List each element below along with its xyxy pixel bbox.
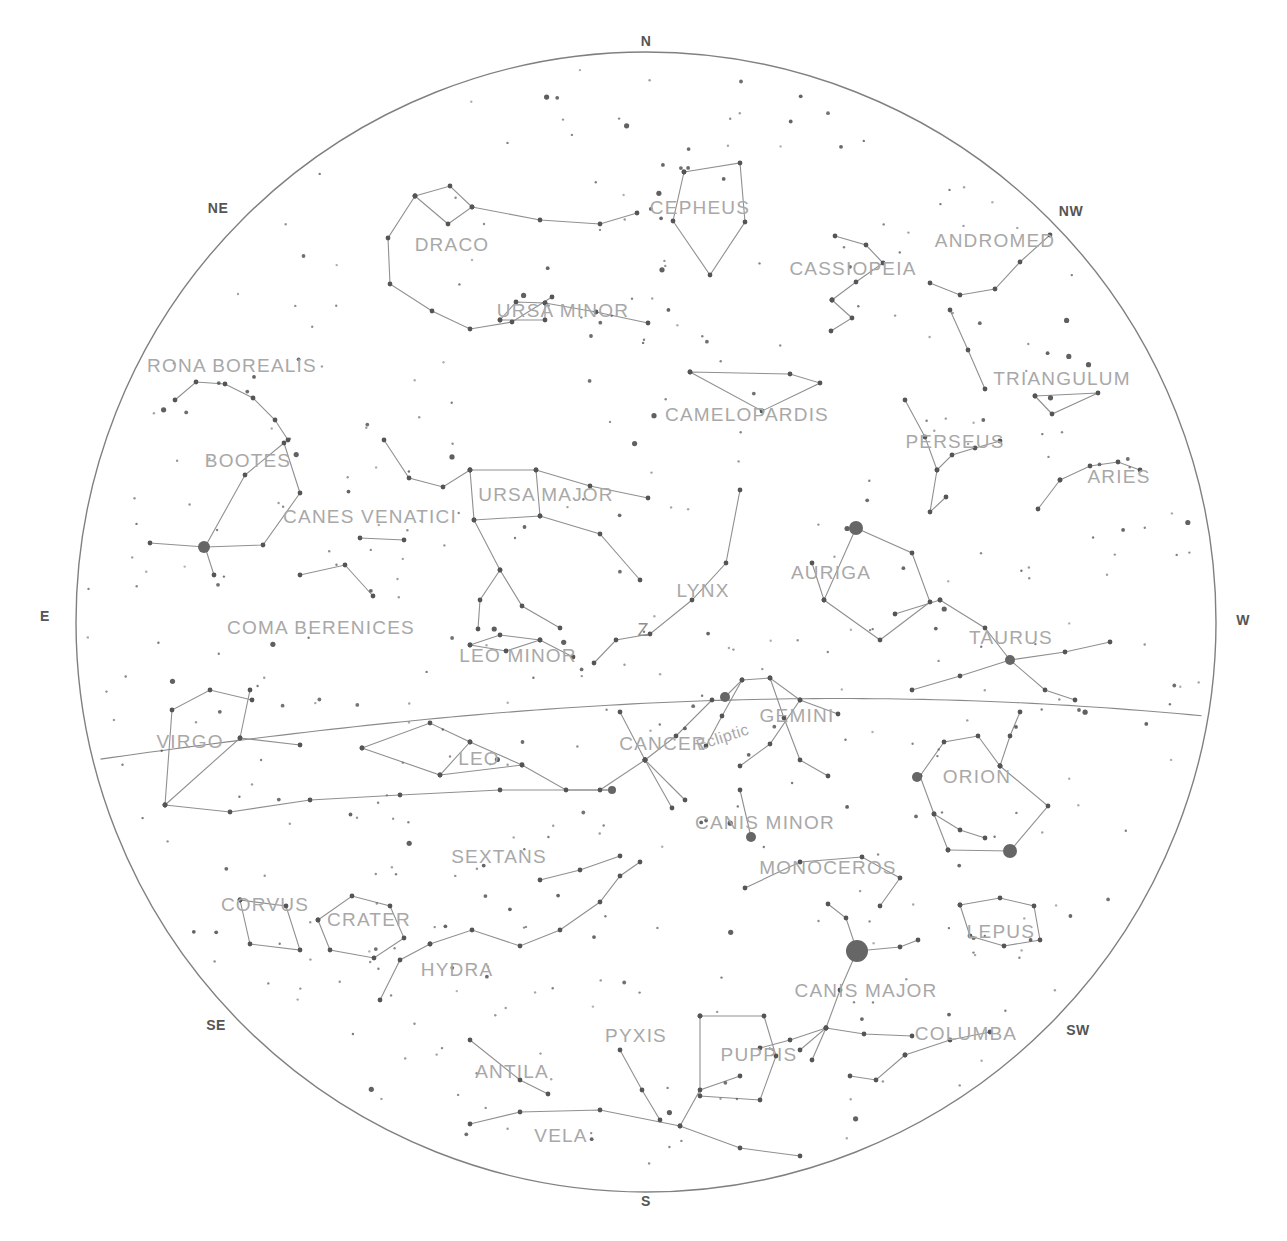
bright-star [1003, 844, 1017, 858]
cardinal-label-sw: SW [1066, 1022, 1090, 1038]
constellation-label-coma-berenices: COMA BERENICES [227, 617, 415, 639]
constellation-label-pyxis: PYXIS [605, 1025, 667, 1047]
constellation-label-rona-borealis: RONA BOREALIS [147, 355, 317, 377]
zenith-marker-label: Z [638, 620, 649, 641]
constellation-label-orion: ORION [943, 766, 1011, 788]
cardinal-label-nw: NW [1059, 203, 1083, 219]
constellation-label-aries: ARIES [1087, 466, 1150, 488]
constellation-label-canes-venatici: CANES VENATICI [283, 506, 457, 528]
constellation-label-andromed: ANDROMED [935, 230, 1055, 252]
constellation-label-leo-minor: LEO MINOR [459, 645, 576, 667]
constellation-lines [150, 163, 1140, 1156]
constellation-label-canis-minor: CANIS MINOR [695, 812, 835, 834]
cardinal-label-se: SE [206, 1017, 226, 1033]
cardinal-label-ne: NE [208, 200, 228, 216]
bright-star [720, 692, 730, 702]
constellation-label-vela: VELA [534, 1125, 587, 1147]
bright-stars [198, 521, 1017, 962]
constellation-label-ursa-minor: URSA MINOR [497, 300, 629, 322]
bright-star [846, 940, 868, 962]
constellation-label-draco: DRACO [415, 234, 490, 256]
constellation-label-taurus: TAURUS [969, 627, 1053, 649]
bright-star [608, 786, 616, 794]
constellation-label-cepheus: CEPHEUS [650, 197, 750, 219]
constellation-label-lepus: LEPUS [967, 921, 1035, 943]
cardinal-label-w: W [1236, 612, 1250, 628]
constellation-label-bootes: BOOTES [205, 450, 291, 472]
constellation-label-cassiopeia: CASSIOPEIA [789, 258, 916, 280]
constellation-label-hydra: HYDRA [421, 959, 494, 981]
constellation-label-lynx: LYNX [676, 580, 729, 602]
constellation-label-corvus: CORVUS [221, 894, 309, 916]
constellation-label-gemini: GEMINI [760, 705, 835, 727]
constellation-label-sextans: SEXTANS [451, 846, 547, 868]
constellation-label-puppis: PUPPIS [721, 1044, 798, 1066]
star-chart: NNENWEWSESWS CEPHEUSDRACOCASSIOPEIAANDRO… [0, 0, 1287, 1241]
bright-star [912, 772, 922, 782]
cardinal-label-s: S [641, 1193, 651, 1209]
cardinal-label-n: N [641, 33, 652, 49]
constellation-label-triangulum: TRIANGULUM [993, 368, 1131, 390]
constellation-label-ursa-major: URSA MAJOR [478, 484, 614, 506]
constellation-label-columba: COLUMBA [915, 1023, 1017, 1045]
bright-star [1005, 655, 1015, 665]
bright-star [198, 541, 210, 553]
constellation-label-perseus: PERSEUS [905, 431, 1004, 453]
constellation-label-canis-major: CANIS MAJOR [794, 980, 937, 1002]
constellation-label-leo: LEO [458, 748, 500, 770]
constellation-label-crater: CRATER [327, 909, 411, 931]
cardinal-label-e: E [40, 608, 50, 624]
constellation-label-auriga: AURIGA [791, 562, 871, 584]
bright-star [849, 521, 863, 535]
constellation-label-camelopardis: CAMELOPARDIS [665, 404, 829, 426]
constellation-label-antila: ANTILA [475, 1061, 549, 1083]
constellation-label-virgo: VIRGO [156, 731, 223, 753]
constellation-label-monoceros: MONOCEROS [759, 857, 896, 879]
